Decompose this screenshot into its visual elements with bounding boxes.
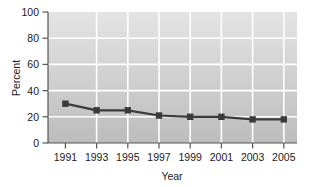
x-axis-title: Year <box>161 170 183 182</box>
plot-area-background <box>48 12 297 143</box>
data-point-2001 <box>218 114 224 120</box>
data-point-2005 <box>281 116 287 122</box>
y-tick-label-100: 100 <box>21 6 39 18</box>
x-tick-label-1995: 1995 <box>116 151 140 163</box>
x-tick-label-1993: 1993 <box>85 151 109 163</box>
line-chart-canvas: 100 80 60 40 20 0 1991 1993 1995 1997 19… <box>0 0 317 187</box>
y-tick-label-40: 40 <box>27 85 39 97</box>
chart-figure: 100 80 60 40 20 0 1991 1993 1995 1997 19… <box>0 0 317 187</box>
data-point-1997 <box>156 112 162 118</box>
data-point-1993 <box>93 107 99 113</box>
data-point-1999 <box>187 114 193 120</box>
y-tick-label-60: 60 <box>27 58 39 70</box>
y-axis-title: Percent <box>10 60 22 96</box>
x-tick-label-1997: 1997 <box>147 151 171 163</box>
y-tick-label-0: 0 <box>33 137 39 149</box>
y-tick-label-80: 80 <box>27 32 39 44</box>
data-point-1995 <box>125 107 131 113</box>
x-tick-label-2005: 2005 <box>272 151 296 163</box>
x-tick-label-1999: 1999 <box>179 151 203 163</box>
data-point-2003 <box>249 116 255 122</box>
data-point-1991 <box>62 101 68 107</box>
x-tick-label-2003: 2003 <box>241 151 265 163</box>
x-tick-label-2001: 2001 <box>210 151 234 163</box>
y-tick-label-20: 20 <box>27 111 39 123</box>
x-tick-label-1991: 1991 <box>54 151 78 163</box>
